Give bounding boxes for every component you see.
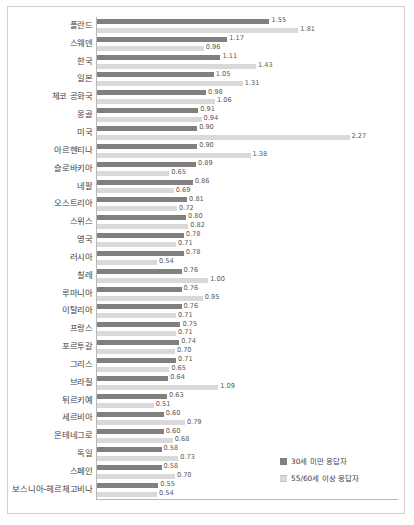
bar-old: 0.71 (97, 311, 398, 320)
bar-value-label: 1.17 (229, 35, 244, 42)
bar-young: 0.58 (97, 445, 398, 454)
bar-group-row: 프랑스0.750.71 (97, 320, 398, 338)
bar-rect (97, 429, 164, 434)
bar-young: 0.71 (97, 356, 398, 365)
bar-rect (97, 331, 176, 336)
bar-rect (97, 64, 256, 69)
bar-young: 0.76 (97, 303, 398, 312)
category-label: 일본 (77, 75, 93, 84)
bar-rect (97, 188, 174, 193)
bar-value-label: 0.72 (179, 205, 194, 212)
bar-young: 0.75 (97, 320, 398, 329)
bar-young: 0.60 (97, 410, 398, 419)
bar-value-label: 0.94 (204, 115, 219, 122)
category-label: 칠레 (77, 271, 93, 280)
bar-old: 0.70 (97, 347, 398, 356)
bar-value-label: 0.76 (184, 303, 199, 310)
bar-young: 0.74 (97, 338, 398, 347)
bar-group-row: 세르비아0.600.79 (97, 410, 398, 428)
legend-item-old[interactable]: 55/60세 이상 응답자 (280, 475, 359, 482)
bar-rect (97, 197, 187, 202)
category-label: 몽골 (77, 111, 93, 120)
bar-old: 1.06 (97, 97, 398, 106)
legend-label: 55/60세 이상 응답자 (291, 475, 359, 482)
bar-old: 0.54 (97, 490, 398, 499)
bar-rect (97, 447, 162, 452)
category-label: 몬테네그로 (54, 432, 93, 441)
bar-young: 0.90 (97, 142, 398, 151)
bar-rect (97, 215, 186, 220)
category-label: 아르헨티나 (54, 146, 93, 155)
bar-value-label: 0.64 (170, 374, 185, 381)
category-label: 러시아 (70, 253, 93, 262)
bar-value-label: 0.71 (178, 240, 193, 247)
bar-old: 0.68 (97, 436, 398, 445)
bar-value-label: 0.86 (195, 178, 210, 185)
chart-plot-area: 폴란드1.551.81스웨덴1.170.96한국1.111.43일본1.051.… (96, 17, 398, 500)
bar-group-row: 브라질0.641.09 (97, 374, 398, 392)
bar-old: 1.43 (97, 62, 398, 71)
bar-group-row: 슬로바키아0.890.65 (97, 160, 398, 178)
bar-rect (97, 251, 184, 256)
bar-value-label: 0.63 (169, 392, 184, 399)
bar-old: 2.27 (97, 133, 398, 142)
category-label: 슬로바키아 (54, 164, 93, 173)
bar-value-label: 1.00 (210, 276, 225, 283)
bar-rect (97, 456, 178, 461)
bar-value-label: 0.96 (206, 44, 221, 51)
bar-young: 0.80 (97, 213, 398, 222)
bar-old: 1.00 (97, 276, 398, 285)
bar-value-label: 1.09 (220, 383, 235, 390)
bar-value-label: 1.11 (222, 53, 237, 60)
legend-item-young[interactable]: 30세 미만 응답자 (280, 458, 359, 465)
bar-value-label: 0.78 (186, 249, 201, 256)
bar-rect (97, 287, 182, 292)
bar-group-row: 미국0.902.27 (97, 124, 398, 142)
bar-old: 0.95 (97, 294, 398, 303)
bar-rect (97, 90, 206, 95)
bar-rect (97, 233, 184, 238)
bar-value-label: 0.70 (177, 472, 192, 479)
category-label: 튀르키예 (62, 396, 93, 405)
category-label: 미국 (77, 128, 93, 137)
bar-rect (97, 117, 202, 122)
bar-rect (97, 340, 179, 345)
bar-value-label: 0.60 (166, 410, 181, 417)
category-label: 그리스 (70, 360, 93, 369)
bar-rect (97, 492, 157, 497)
chart-frame: 폴란드1.551.81스웨덴1.170.96한국1.111.43일본1.051.… (7, 6, 405, 514)
bar-value-label: 0.71 (178, 312, 193, 319)
bar-rect (97, 37, 227, 42)
bar-value-label: 0.69 (176, 187, 191, 194)
bar-rect (97, 304, 182, 309)
bar-value-label: 0.75 (182, 321, 197, 328)
bar-rect (97, 135, 350, 140)
bar-rect (97, 403, 154, 408)
bar-group-row: 러시아0.780.54 (97, 249, 398, 267)
bar-rect (97, 224, 188, 229)
bar-value-label: 0.71 (178, 329, 193, 336)
category-label: 프랑스 (70, 325, 93, 334)
bar-young: 0.78 (97, 231, 398, 240)
bar-value-label: 1.43 (258, 62, 273, 69)
bar-old: 0.65 (97, 365, 398, 374)
bar-rect (97, 483, 158, 488)
bar-value-label: 0.60 (166, 428, 181, 435)
bar-young: 0.91 (97, 106, 398, 115)
bar-rect (97, 206, 177, 211)
bar-value-label: 0.78 (186, 231, 201, 238)
bar-rect (97, 376, 168, 381)
bar-rect (97, 46, 204, 51)
bar-value-label: 0.68 (175, 436, 190, 443)
bar-value-label: 0.89 (198, 160, 213, 167)
bar-old: 0.71 (97, 329, 398, 338)
bar-rect (97, 322, 180, 327)
bar-old: 0.71 (97, 240, 398, 249)
category-label: 폴란드 (70, 21, 93, 30)
bar-value-label: 1.05 (216, 71, 231, 78)
category-label: 포르투갈 (62, 342, 93, 351)
bar-old: 0.51 (97, 401, 398, 410)
bar-value-label: 0.98 (208, 89, 223, 96)
bar-rect (97, 99, 215, 104)
category-label: 세르비아 (62, 414, 93, 423)
